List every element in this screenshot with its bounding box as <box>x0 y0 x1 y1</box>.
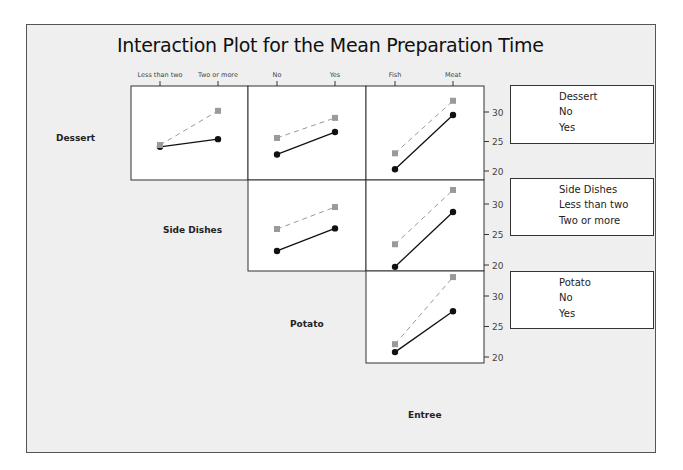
interaction-panel <box>131 86 248 180</box>
legend-entry: Less than two <box>559 199 628 210</box>
data-point-circle <box>215 136 221 142</box>
legend-entry: No <box>559 292 573 303</box>
y-tick-label: 20 <box>492 261 504 271</box>
interaction-panel <box>366 180 484 271</box>
data-point-circle <box>450 112 456 118</box>
legend-potato: Potato No Yes <box>510 271 654 329</box>
legend-side-dishes: Side Dishes Less than two Two or more <box>510 178 654 236</box>
legend-title: Potato <box>559 277 591 288</box>
column-tick-label: Less than two <box>137 71 182 79</box>
data-point-square <box>392 150 398 156</box>
data-point-circle <box>392 166 398 172</box>
data-point-square <box>274 135 280 141</box>
data-point-square <box>450 187 456 193</box>
interaction-panel <box>248 86 366 180</box>
column-tick-label: Two or more <box>197 71 238 79</box>
legend-entry: No <box>559 106 573 117</box>
y-tick-label: 25 <box>492 230 503 240</box>
legend-dessert: Dessert No Yes <box>510 85 654 144</box>
data-point-circle <box>274 151 280 157</box>
column-tick-label: Yes <box>329 71 341 79</box>
legend-entry: Yes <box>559 122 575 133</box>
data-point-square <box>392 241 398 247</box>
legend-entry: Two or more <box>559 215 620 226</box>
interaction-panel <box>366 86 484 180</box>
y-tick-label: 20 <box>492 353 504 363</box>
data-point-square <box>332 204 338 210</box>
data-point-circle <box>392 349 398 355</box>
data-point-square <box>450 98 456 104</box>
interaction-panel <box>248 180 366 271</box>
y-tick-label: 25 <box>492 322 503 332</box>
interaction-panel <box>366 271 484 363</box>
y-tick-label: 30 <box>492 292 504 302</box>
legend-title: Side Dishes <box>559 184 617 195</box>
legend-title: Dessert <box>559 91 597 102</box>
column-tick-label: Meat <box>445 71 462 79</box>
data-point-circle <box>274 248 280 254</box>
data-point-square <box>392 341 398 347</box>
data-point-square <box>157 142 163 148</box>
data-point-circle <box>332 129 338 135</box>
data-point-circle <box>450 209 456 215</box>
data-point-square <box>274 226 280 232</box>
column-tick-label: No <box>273 71 282 79</box>
data-point-circle <box>450 308 456 314</box>
y-tick-label: 25 <box>492 137 503 147</box>
column-tick-label: Fish <box>389 71 402 79</box>
data-point-square <box>332 115 338 121</box>
y-tick-label: 30 <box>492 108 504 118</box>
y-tick-label: 30 <box>492 200 504 210</box>
data-point-square <box>215 108 221 114</box>
legend-entry: Yes <box>559 308 575 319</box>
data-point-square <box>450 274 456 280</box>
data-point-circle <box>392 264 398 270</box>
data-point-circle <box>332 225 338 231</box>
y-tick-label: 20 <box>492 167 504 177</box>
